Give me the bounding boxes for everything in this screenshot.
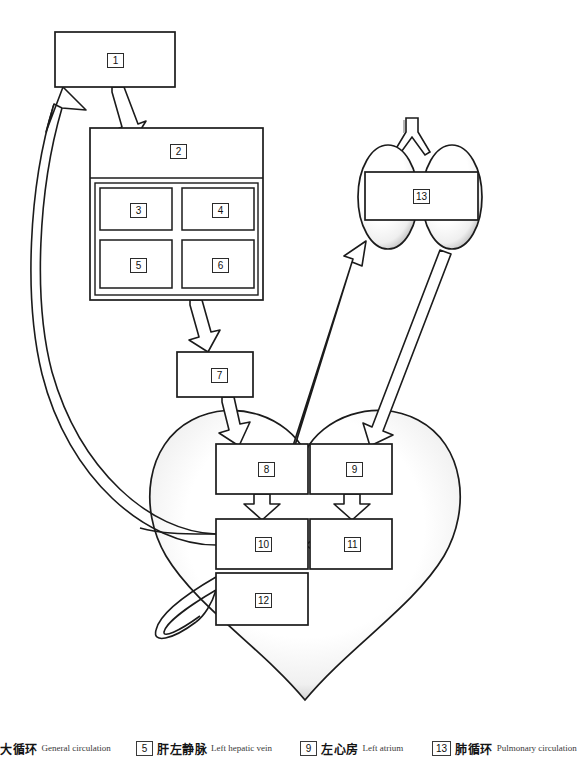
legend-item-9: 9 左心房 Left atrium <box>300 737 403 759</box>
box-label-11: 11 <box>344 537 361 552</box>
box-label-13: 13 <box>413 189 430 204</box>
box-label-7: 7 <box>211 368 228 383</box>
box-label-10: 10 <box>255 537 272 552</box>
legend-num-5: 5 <box>136 741 153 756</box>
legend-en-13: Pulmonary circulation <box>497 743 577 753</box>
box-label-12: 12 <box>255 593 272 608</box>
box-label-6: 6 <box>212 258 229 273</box>
box-label-2: 2 <box>170 144 187 159</box>
arrow-2-to-7 <box>189 300 220 352</box>
legend: 大循环 General circulation 5 肝左静脉 Left hepa… <box>0 735 581 762</box>
legend-item-13: 13 肺循环 Pulmonary circulation <box>432 737 577 759</box>
box-label-1: 1 <box>107 53 124 68</box>
box-label-9: 9 <box>346 462 363 477</box>
box-label-3: 3 <box>130 203 147 218</box>
legend-en-5: Left hepatic vein <box>211 743 272 753</box>
legend-item-1: 大循环 General circulation <box>0 737 111 759</box>
legend-en-9: Left atrium <box>363 743 404 753</box>
box-label-8: 8 <box>258 462 275 477</box>
legend-cn-5: 肝左静脉 <box>157 740 207 757</box>
legend-num-13: 13 <box>432 741 451 756</box>
legend-cn-9: 左心房 <box>321 740 359 757</box>
legend-cn-13: 肺循环 <box>455 740 493 757</box>
legend-cn-1: 大循环 <box>0 740 38 757</box>
box-label-4: 4 <box>212 203 229 218</box>
box-label-5: 5 <box>130 258 147 273</box>
legend-en-1: General circulation <box>42 743 111 753</box>
legend-num-9: 9 <box>300 741 317 756</box>
circulation-diagram <box>0 0 581 762</box>
legend-item-5: 5 肝左静脉 Left hepatic vein <box>136 737 272 759</box>
